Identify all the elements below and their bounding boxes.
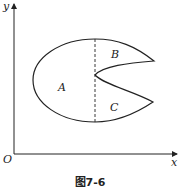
region-outline xyxy=(33,39,154,122)
region-label-c: C xyxy=(110,101,119,114)
region-label-b: B xyxy=(110,48,119,61)
y-axis-label: y xyxy=(2,0,10,13)
figure-caption: 图7-6 xyxy=(75,176,106,187)
x-axis-label: x xyxy=(171,156,178,169)
region-label-a: A xyxy=(57,81,66,94)
diagram-canvas: y O x A B C 图7-6 xyxy=(0,0,181,187)
origin-label: O xyxy=(3,153,12,166)
